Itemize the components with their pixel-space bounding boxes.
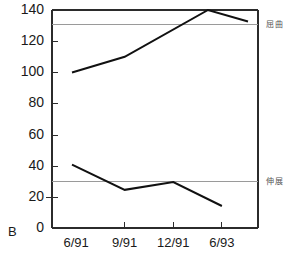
- ytick-label-140: 140: [21, 1, 45, 17]
- ytick-label-80: 80: [28, 94, 44, 110]
- line-chart: 140 120 100 80 60 40 20 0 6/91 9/91 12/9…: [0, 0, 294, 256]
- series-line-extension: [72, 165, 222, 206]
- xtick-label-9-91: 9/91: [112, 235, 137, 250]
- reference-label-extension: 伸展: [266, 176, 284, 186]
- ytick-label-120: 120: [21, 32, 45, 48]
- ytick-label-100: 100: [21, 63, 45, 79]
- ytick-label-40: 40: [28, 157, 44, 173]
- ytick-label-60: 60: [28, 126, 44, 142]
- reference-label-flexion: 屈曲: [266, 19, 284, 29]
- xtick-label-12-91: 12/91: [157, 235, 190, 250]
- series-line-flexion: [72, 10, 248, 72]
- ytick-label-20: 20: [28, 188, 44, 204]
- ytick-label-0: 0: [36, 219, 44, 235]
- panel-label-b: B: [8, 224, 17, 239]
- xtick-label-6-93: 6/93: [209, 235, 234, 250]
- xtick-label-6-91: 6/91: [63, 235, 88, 250]
- chart-figure: 140 120 100 80 60 40 20 0 6/91 9/91 12/9…: [0, 0, 294, 256]
